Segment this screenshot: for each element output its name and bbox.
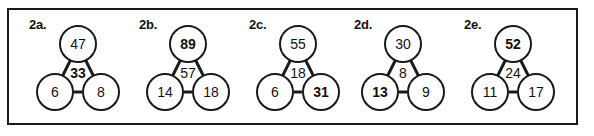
- number-triangle-2c: 5563118: [243, 10, 353, 127]
- node-top-2a[interactable]: 47: [59, 25, 97, 63]
- node-center-2b[interactable]: 57: [169, 66, 207, 80]
- node-top-2b[interactable]: 89: [169, 25, 207, 63]
- number-triangle-2a: 476833: [23, 10, 133, 127]
- worksheet-frame: 2a.4768332b.891418572c.55631182d.3013982…: [7, 8, 578, 125]
- node-center-2d[interactable]: 8: [384, 66, 422, 80]
- node-top-2e[interactable]: 52: [494, 25, 532, 63]
- node-center-2a[interactable]: 33: [59, 66, 97, 80]
- node-center-2c[interactable]: 18: [279, 66, 317, 80]
- problem-2e: 2e.52111724: [458, 10, 568, 127]
- node-top-2c[interactable]: 55: [279, 25, 317, 63]
- number-triangle-2e: 52111724: [458, 10, 568, 127]
- node-top-2d[interactable]: 30: [384, 25, 422, 63]
- number-triangle-2d: 301398: [348, 10, 458, 127]
- problem-2c: 2c.5563118: [243, 10, 353, 127]
- problem-2d: 2d.301398: [348, 10, 458, 127]
- number-triangle-2b: 89141857: [133, 10, 243, 127]
- worksheet-canvas: 2a.4768332b.891418572c.55631182d.3013982…: [0, 0, 594, 136]
- problem-2a: 2a.476833: [23, 10, 133, 127]
- node-center-2e[interactable]: 24: [494, 66, 532, 80]
- problem-2b: 2b.89141857: [133, 10, 243, 127]
